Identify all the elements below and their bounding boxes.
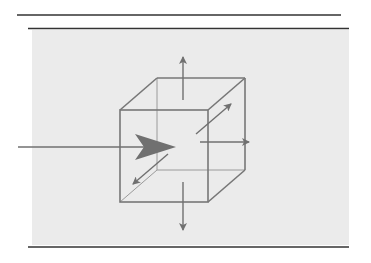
- channel-background: [32, 30, 349, 245]
- control-volume-diagram: [0, 0, 371, 263]
